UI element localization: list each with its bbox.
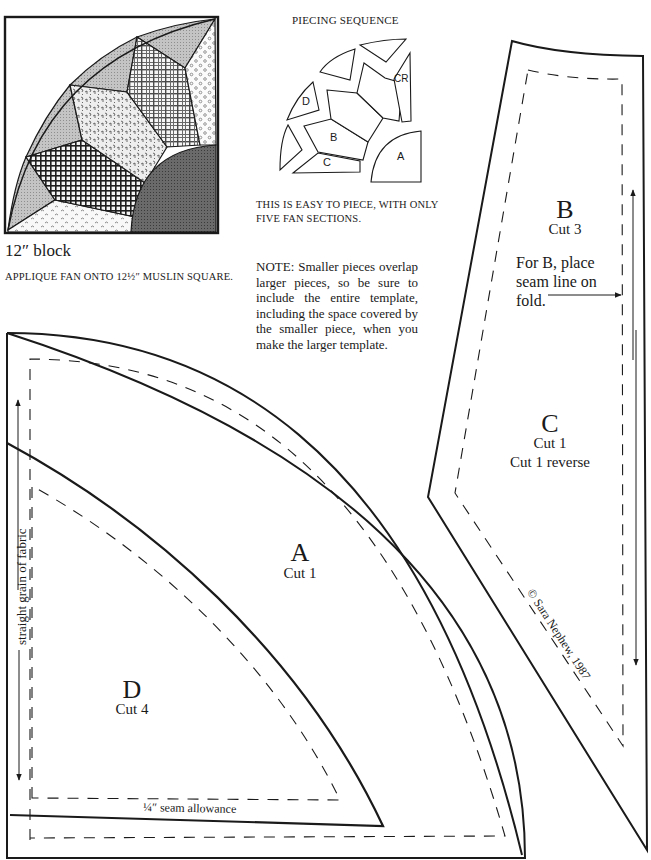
template-c-cut-reverse: Cut 1 reverse: [480, 453, 620, 471]
grain-label: straight grain of fabric: [14, 528, 30, 645]
piecing-label-a: A: [397, 150, 404, 162]
template-a-cut: Cut 1: [265, 564, 335, 582]
piecing-label-c: C: [323, 156, 331, 168]
applique-instruction: APPLIQUE FAN ONTO 12½″ MUSLIN SQUARE.: [5, 270, 235, 284]
template-b-cut: Cut 3: [530, 220, 600, 238]
overlap-note: NOTE: Smaller pieces overlap larger piec…: [256, 259, 418, 352]
template-b-fold-note: For B, place seam line on fold.: [516, 253, 616, 310]
seam-allowance-label: ¼″ seam allowance: [143, 800, 237, 817]
piecing-sequence-title: PIECING SEQUENCE: [292, 13, 399, 27]
fan-block-illustration: [5, 17, 218, 233]
template-d-outline: [7, 443, 383, 826]
piecing-label-d: D: [302, 95, 310, 107]
piecing-description: THIS IS EASY TO PIECE, WITH ONLY FIVE FA…: [256, 198, 461, 226]
template-a-letter: A: [275, 540, 325, 566]
template-d-cut: Cut 4: [97, 700, 167, 718]
piecing-label-cr: CR: [394, 73, 408, 84]
piecing-label-b: B: [330, 131, 337, 143]
template-c-cut: Cut 1: [500, 434, 600, 452]
block-caption: 12″ block: [5, 241, 71, 261]
